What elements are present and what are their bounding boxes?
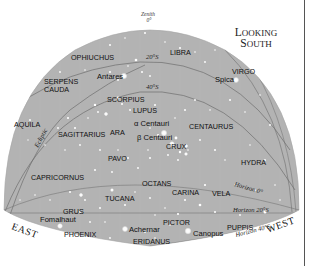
title-line2-rest: OUTH [247,39,272,49]
constellation-pictor: PICTOR [163,218,190,227]
star-label-antares: Antares [97,72,123,81]
declination-40s-label: 40°S [146,83,159,90]
star-achernar [122,226,128,232]
star-canopus [184,227,191,234]
constellation-pavo: PAVO [108,154,127,163]
star-label-spica: Spica [215,75,235,84]
constellation-capricornus: CAPRICORNUS [31,173,84,182]
constellation-centaurus: CENTAURUS [189,122,233,131]
star-label-canopus: Canopus [193,229,224,238]
constellation-cauda: CAUDA [44,85,69,94]
title-line1-rest: OOKING [242,28,278,38]
constellation-aquila: AQUILA [14,120,41,129]
constellation-crux: CRUX [166,142,187,151]
constellation-hydra: HYDRA [241,158,266,167]
constellation-carina: CARINA [172,188,199,197]
star-label-alpha-centauri: α Centauri [134,119,170,128]
zenith-value: 0° [147,17,153,23]
constellation-octans: OCTANS [142,179,172,188]
star-shaula [104,112,108,116]
constellation-vela: VELA [212,189,231,198]
constellation-virgo: VIRGO [232,67,256,76]
star-crux-2 [184,152,188,156]
constellation-libra: LIBRA [170,48,191,57]
star-label-achernar: Achernar [129,225,160,234]
constellation-eridanus: ERIDANUS [133,237,170,246]
right-border-rule [304,0,305,266]
horizon-20s-label: Horizon 20°S [232,206,269,213]
constellation-sagittarius: SAGITTARIUS [58,130,106,139]
declination-20s-label: 20°S [146,53,159,60]
svg-text:SOUTH: SOUTH [240,37,272,49]
constellation-scorpius: SCORPIUS [107,95,145,104]
constellation-phoenix: PHOENIX [64,230,97,239]
constellation-ara: ARA [110,128,125,137]
star-chart: Zenith 0° 20°S 40°S Ecliptic OPHIUCHUS L… [0,0,313,266]
constellation-tucana: TUCANA [105,194,135,203]
star-label-beta-centauri: β Centauri [137,133,172,142]
constellation-lupus: LUPUS [133,106,157,115]
constellation-ophiuchus: OPHIUCHUS [71,53,114,62]
star-peacock [79,193,83,197]
looking-south-title: LOOKING SOUTH [235,26,278,49]
star-label-fomalhaut: Fomalhaut [40,215,77,224]
